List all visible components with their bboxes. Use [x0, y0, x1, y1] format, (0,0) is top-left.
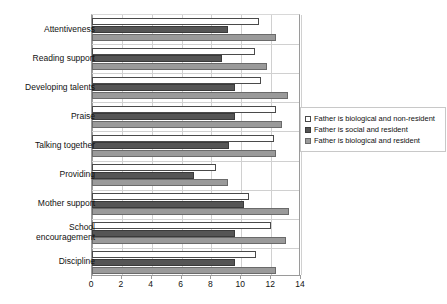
bar — [92, 121, 282, 128]
legend-swatch-icon — [305, 138, 311, 144]
bar-group — [92, 131, 299, 160]
bar-chart: AttentivenessReading supportDeveloping t… — [0, 0, 447, 304]
category-label: Reading support — [33, 53, 95, 63]
bar — [92, 55, 222, 62]
bar — [92, 48, 255, 55]
bar-group — [92, 248, 299, 277]
x-tick-label: 12 — [265, 279, 274, 289]
legend-label: Father is biological and non-resident — [314, 114, 435, 123]
legend-swatch-icon — [305, 116, 311, 122]
bar — [92, 92, 288, 99]
legend-label: Father is social and resident — [314, 125, 408, 134]
bar-group — [92, 102, 299, 131]
group-separator — [92, 161, 299, 162]
bar — [92, 193, 249, 200]
bar-group — [92, 15, 299, 44]
bar — [92, 251, 256, 258]
bar-group — [92, 44, 299, 73]
bar — [92, 172, 194, 179]
bar-groups — [92, 15, 299, 275]
x-tick-label: 2 — [118, 279, 123, 289]
bar — [92, 113, 235, 120]
group-separator — [92, 131, 299, 132]
bar — [92, 34, 276, 41]
group-separator — [92, 248, 299, 249]
x-axis: 02468101214 — [0, 279, 447, 293]
group-separator — [92, 219, 299, 220]
group-separator — [92, 190, 299, 191]
group-separator — [92, 102, 299, 103]
bar — [92, 84, 235, 91]
x-tick-label: 4 — [148, 279, 153, 289]
group-separator — [92, 44, 299, 45]
category-label: School encouragement — [36, 222, 95, 242]
bar — [92, 179, 228, 186]
bar — [92, 237, 286, 244]
x-tick-label: 8 — [208, 279, 213, 289]
x-tick-label: 0 — [89, 279, 94, 289]
legend-item[interactable]: Father is social and resident — [305, 125, 442, 134]
bar — [92, 267, 276, 274]
bar — [92, 201, 244, 208]
bar — [92, 18, 259, 25]
category-label: Providing — [60, 169, 95, 179]
bar — [92, 26, 228, 33]
bar — [92, 208, 289, 215]
bar — [92, 222, 271, 229]
bar — [92, 135, 274, 142]
bar — [92, 259, 235, 266]
category-label: Attentiveness — [44, 24, 95, 34]
plot-area — [91, 14, 300, 276]
x-tick-label: 10 — [236, 279, 245, 289]
category-label: Talking together — [35, 140, 95, 150]
legend-label: Father is biological and resident — [314, 136, 420, 145]
bar — [92, 164, 216, 171]
legend-item[interactable]: Father is biological and resident — [305, 136, 442, 145]
group-separator — [92, 73, 299, 74]
x-tick-label: 6 — [178, 279, 183, 289]
category-label: Praise — [71, 111, 95, 121]
legend-item[interactable]: Father is biological and non-resident — [305, 114, 442, 123]
legend-swatch-icon — [305, 127, 311, 133]
bar-group — [92, 219, 299, 248]
bar-group — [92, 190, 299, 219]
bar — [92, 230, 235, 237]
bar — [92, 150, 276, 157]
category-label: Mother support — [38, 198, 95, 208]
bar — [92, 63, 267, 70]
legend: Father is biological and non-residentFat… — [300, 107, 446, 152]
bar — [92, 106, 276, 113]
bar-group — [92, 73, 299, 102]
bar-group — [92, 161, 299, 190]
category-label: Discipline — [59, 256, 95, 266]
x-tick-label: 14 — [295, 279, 304, 289]
bar — [92, 77, 261, 84]
bar — [92, 142, 229, 149]
category-label: Developing talents — [25, 82, 95, 92]
